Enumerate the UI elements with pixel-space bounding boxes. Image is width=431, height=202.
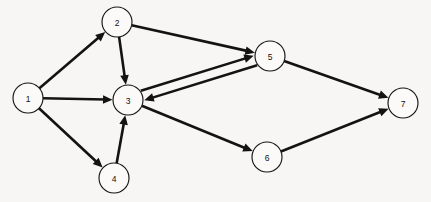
node-circle[interactable] <box>13 83 43 113</box>
arrowhead <box>103 95 113 104</box>
edge-2-to-3 <box>119 37 129 85</box>
edge-shaft <box>142 106 246 149</box>
edge-shaft <box>132 25 248 51</box>
edge-shaft <box>43 98 106 99</box>
node-circle[interactable] <box>255 41 285 71</box>
node-3[interactable]: 3 <box>113 85 143 115</box>
arrowhead <box>243 55 253 63</box>
edge-shaft <box>117 122 124 163</box>
directed-graph: 1234567 <box>0 0 431 202</box>
edge-5-to-7 <box>284 61 388 99</box>
edge-shaft <box>39 37 99 89</box>
edge-6-to-7 <box>281 108 389 151</box>
node-4[interactable]: 4 <box>99 163 129 193</box>
arrowhead <box>245 46 255 54</box>
arrowhead <box>120 75 129 85</box>
node-2[interactable]: 2 <box>102 7 132 37</box>
node-1[interactable]: 1 <box>13 83 43 113</box>
node-5[interactable]: 5 <box>255 41 285 71</box>
node-circle[interactable] <box>252 142 282 172</box>
node-6[interactable]: 6 <box>252 142 282 172</box>
node-circle[interactable] <box>388 88 418 118</box>
edge-shaft <box>39 108 98 162</box>
edge-2-to-5 <box>132 25 255 55</box>
edge-shaft <box>284 61 382 96</box>
node-circle[interactable] <box>113 85 143 115</box>
node-circle[interactable] <box>102 7 132 37</box>
edge-1-to-3 <box>43 95 113 104</box>
diagram-canvas: 1234567 <box>0 0 431 202</box>
edges-layer <box>39 25 389 167</box>
edge-shaft <box>119 37 125 78</box>
edge-shaft <box>281 111 382 151</box>
arrowhead <box>378 91 388 99</box>
edge-4-to-3 <box>117 115 128 163</box>
arrowhead <box>119 115 127 125</box>
edge-3-to-6 <box>142 106 253 152</box>
edge-1-to-4 <box>39 108 103 167</box>
node-7[interactable]: 7 <box>388 88 418 118</box>
arrowhead <box>144 93 154 101</box>
edge-1-to-2 <box>39 32 105 88</box>
node-circle[interactable] <box>99 163 129 193</box>
